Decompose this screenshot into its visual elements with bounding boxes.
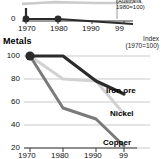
series-label-iron-ore: Iron ore: [106, 86, 136, 95]
coal-xtick-1990: 1990: [82, 24, 100, 33]
series-label-nickel: Nickel: [110, 109, 134, 118]
ytick-40: 40: [2, 120, 20, 129]
ytick-100: 100: [2, 51, 20, 60]
coal-x-axis-labels: 1970 1980 1990 99: [14, 24, 134, 35]
coal-ytick-200: 200: [2, 0, 14, 1]
coal-xtick-1980: 1980: [50, 24, 68, 33]
ytick-60: 60: [2, 97, 20, 106]
coal-legend: Coal (Australia, 1980=100): [116, 0, 160, 11]
metals-chart: Metals Index (1970=100): [0, 36, 161, 159]
coal-ytick-0: 0: [11, 14, 15, 23]
xtick-1970: 1970: [18, 151, 36, 159]
series-line-copper: [30, 56, 124, 146]
coal-xtick-99: 99: [115, 24, 124, 33]
coal-xtick-1970: 1970: [18, 24, 36, 33]
infographic-root: 200 0 1970 1980 1990 99 Coal (Australia,…: [0, 0, 161, 159]
data-marker-1970: [25, 51, 34, 60]
metals-plot-svg: [0, 36, 161, 159]
series-label-copper: Copper: [103, 138, 131, 147]
ytick-80: 80: [2, 74, 20, 83]
xtick-1980: 1980: [51, 151, 69, 159]
coal-chart-cropped: 200 0 1970 1980 1990 99 Coal (Australia,…: [0, 0, 161, 36]
xtick-99: 99: [119, 151, 128, 159]
coal-legend-sub2: 1980=100): [116, 4, 160, 11]
xtick-1990: 1990: [84, 151, 102, 159]
